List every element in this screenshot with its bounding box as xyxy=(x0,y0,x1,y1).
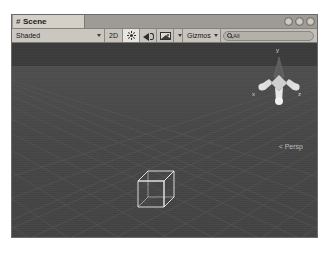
toggle-2d-button[interactable]: 2D xyxy=(105,29,123,42)
camera-mode-text: Persp xyxy=(285,143,303,150)
scene-toolbar: Shaded 2D xyxy=(12,29,317,43)
camera-mode-prefix: < xyxy=(279,143,283,150)
draw-mode-label: Shaded xyxy=(16,32,40,39)
effects-dropdown-button[interactable] xyxy=(174,29,183,42)
search-value: All xyxy=(233,33,240,39)
maximize-button[interactable] xyxy=(295,17,304,26)
hash-icon: # xyxy=(16,18,20,26)
wireframe-cube[interactable] xyxy=(134,167,178,211)
scene-viewport[interactable]: < Persp y x z xyxy=(12,43,317,237)
gizmo-label-z: z xyxy=(298,91,301,97)
search-icon xyxy=(227,33,232,38)
audio-icon xyxy=(143,31,154,40)
toggle-lighting-button[interactable] xyxy=(123,29,140,42)
tab-bar: # Scene xyxy=(12,15,317,29)
window-controls xyxy=(284,15,315,28)
chevron-down-icon xyxy=(214,34,218,37)
image-effects-icon xyxy=(160,32,171,40)
toggle-audio-button[interactable] xyxy=(140,29,157,42)
gizmo-label-x: x xyxy=(252,91,255,97)
gizmo-label-y: y xyxy=(276,47,279,53)
close-button[interactable] xyxy=(306,17,315,26)
sun-icon xyxy=(127,31,136,40)
unity-scene-window: # Scene Shaded 2D xyxy=(11,14,318,238)
search-input[interactable]: All xyxy=(223,31,314,41)
tab-scene-label: Scene xyxy=(23,18,47,26)
minimize-button[interactable] xyxy=(284,17,293,26)
chevron-down-icon xyxy=(178,34,182,37)
chevron-down-icon xyxy=(97,34,101,37)
scene-view-gizmo[interactable]: y x z xyxy=(247,47,311,111)
camera-mode-label[interactable]: < Persp xyxy=(279,143,303,150)
search-container: All xyxy=(221,29,317,42)
tab-scene[interactable]: # Scene xyxy=(13,15,85,28)
draw-mode-dropdown[interactable]: Shaded xyxy=(12,29,105,42)
toggle-2d-label: 2D xyxy=(109,32,118,39)
gizmos-dropdown[interactable]: Gizmos xyxy=(183,29,221,42)
gizmo-axes xyxy=(247,47,311,111)
gizmos-label: Gizmos xyxy=(187,32,211,39)
toggle-effects-button[interactable] xyxy=(157,29,174,42)
